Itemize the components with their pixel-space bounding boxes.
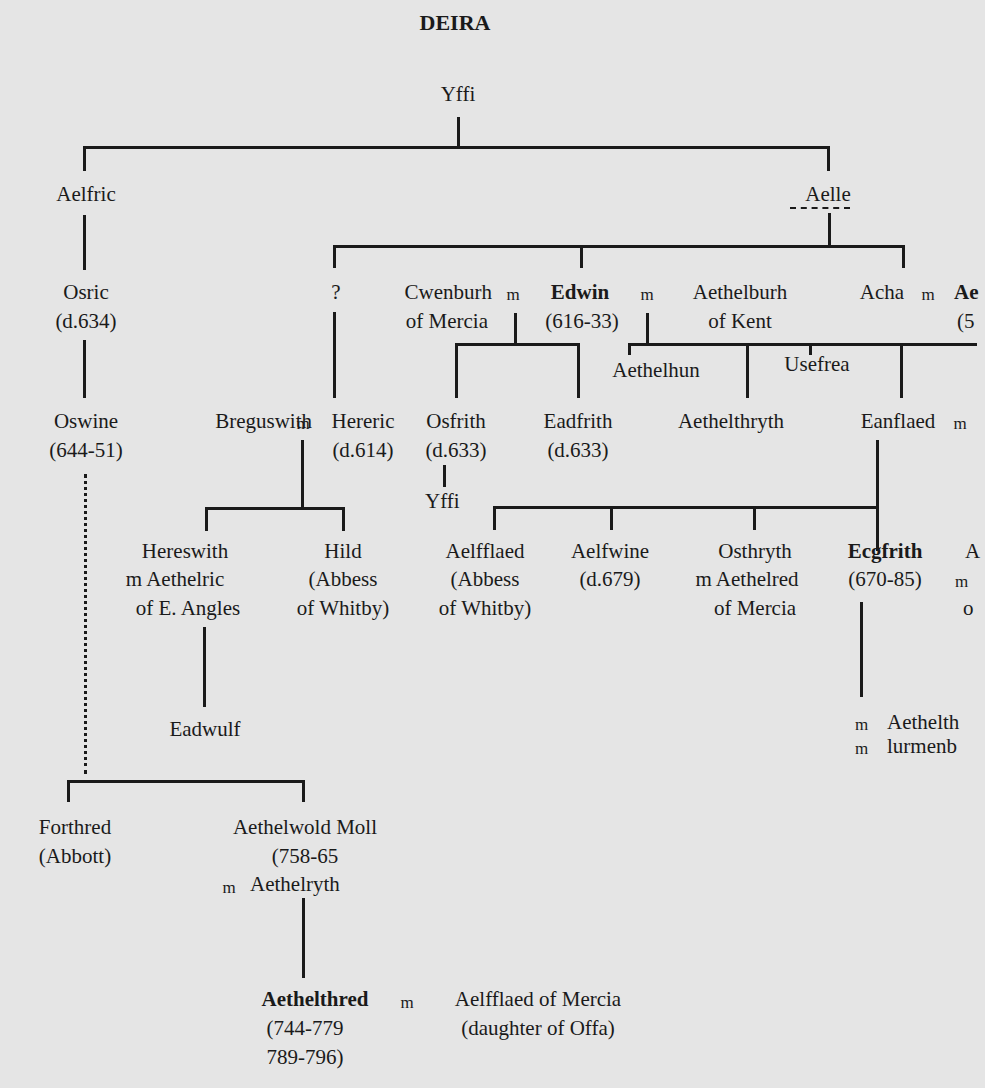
line-hereswith-eadwulf — [203, 627, 206, 707]
aethelburh-note: of Kent — [670, 307, 810, 336]
person-osthryth: Osthryth — [690, 537, 820, 566]
person-hereric: Hereric — [318, 407, 408, 436]
person-oswine: Oswine — [36, 407, 136, 436]
aelfflaed-mercia-note: (daughter of Offa) — [428, 1014, 648, 1043]
aethelwold-spouse: Aethelryth — [250, 870, 390, 899]
line-to-hereswith — [205, 507, 208, 531]
person-aethelthred: Aethelthred — [245, 985, 385, 1014]
aelfflaed-abbess-note1: (Abbess — [420, 565, 550, 594]
person-acha: Acha — [852, 278, 912, 307]
marriage-acha: m — [918, 280, 938, 309]
osric-dates: (d.634) — [36, 307, 136, 336]
person-ecgfrith: Ecgfrith — [835, 537, 935, 566]
person-aelfflaed-abbess: Aelfflaed — [420, 537, 550, 566]
person-yffi-root: Yffi — [428, 80, 488, 109]
line-to-aelfflaed — [493, 506, 496, 530]
person-cwenburh: Cwenburh — [360, 278, 492, 307]
person-hild: Hild — [288, 537, 398, 566]
hereswith-spouse: m Aethelric — [110, 565, 240, 594]
person-usefrea: Usefrea — [772, 350, 862, 379]
hereric-dates: (d.614) — [318, 436, 408, 465]
hild-note2: of Whitby) — [268, 594, 418, 623]
line-aelle-down — [828, 213, 831, 247]
person-eadwulf: Eadwulf — [150, 715, 260, 744]
osfrith-dates: (d.633) — [416, 436, 496, 465]
line-to-aelle — [827, 146, 830, 171]
marriage-edwin-aethelburh: m — [637, 280, 657, 309]
person-aethelwold: Aethelwold Moll — [205, 813, 405, 842]
aelle-dashed-underline — [790, 207, 850, 209]
line-hereric-children-bar — [205, 507, 345, 510]
marriage-breguswith-hereric: m — [293, 409, 313, 438]
person-unknown: ? — [326, 278, 346, 307]
oswine-dates: (644-51) — [36, 436, 136, 465]
line-to-forthred — [67, 780, 70, 802]
line-aethelwold-aethelthred — [302, 898, 305, 978]
osthryth-spouse: m Aethelred — [672, 565, 822, 594]
person-osric: Osric — [36, 278, 136, 307]
line-osfrith-yffi — [443, 465, 446, 487]
line-to-unknown — [333, 245, 336, 268]
line-to-aethelwold — [302, 780, 305, 802]
line-eanflaed-issue — [876, 440, 879, 551]
aelfflaed-abbess-note2: of Whitby) — [410, 594, 560, 623]
person-aelle: Aelle — [788, 180, 868, 209]
ecgfrith-sibling-marriage: m — [955, 567, 985, 596]
line-oswine-descendants-bar — [67, 780, 305, 783]
line-osric-oswine — [83, 340, 86, 398]
ecgfrith-sibling-note: o — [963, 594, 985, 623]
cwenburh-note: of Mercia — [360, 307, 488, 336]
line-hereric-issue — [301, 440, 304, 510]
person-aelfflaed-mercia: Aelfflaed of Mercia — [428, 985, 648, 1014]
aethelthred-dates1: (744-779 — [255, 1014, 355, 1043]
person-yffi-grandson: Yffi — [425, 487, 475, 516]
line-cwenburh-edwin-issue — [514, 313, 517, 344]
line-aethelburh-children-bar — [628, 343, 977, 346]
osthryth-note: of Mercia — [690, 594, 820, 623]
line-to-aelfwine — [610, 506, 613, 530]
ecgfrith-dates: (670-85) — [835, 565, 935, 594]
marriage-aethelwold: m — [219, 873, 239, 902]
aelfwine-dates: (d.679) — [555, 565, 665, 594]
page-title: DEIRA — [405, 8, 505, 37]
line-unknown-hereric — [333, 312, 336, 398]
person-breguswith: Breguswith — [150, 407, 312, 436]
line-to-aethelhun — [628, 343, 631, 355]
marriage-ecgfrith-2: m — [855, 734, 875, 763]
edwin-dates: (616-33) — [532, 307, 632, 336]
line-to-aethelthryth — [746, 343, 749, 398]
person-osfrith: Osfrith — [416, 407, 496, 436]
line-to-osfrith — [455, 343, 458, 398]
line-eanflaed-children-bar — [493, 506, 879, 509]
person-aethelhun: Aethelhun — [596, 356, 716, 385]
marriage-eanflaed: m — [950, 409, 970, 438]
person-aelfwine: Aelfwine — [555, 537, 665, 566]
eadfrith-dates: (d.633) — [528, 436, 628, 465]
line-aelle-children-bar — [333, 245, 905, 248]
person-aethelburh: Aethelburh — [670, 278, 810, 307]
person-hereswith: Hereswith — [120, 537, 250, 566]
line-yffi-down — [457, 117, 460, 148]
ecgfrith-spouse-2: lurmenb — [887, 732, 985, 761]
person-forthred: Forthred — [20, 813, 130, 842]
line-oswine-descendants-dotted — [84, 474, 87, 774]
aethelwold-dates: (758-65 — [255, 842, 355, 871]
hild-note1: (Abbess — [288, 565, 398, 594]
marriage-aethelthred: m — [397, 988, 417, 1017]
line-aelfric-osric — [83, 215, 86, 270]
person-aelfric: Aelfric — [36, 180, 136, 209]
aethelthred-dates2: 789-796) — [255, 1043, 355, 1072]
person-eanflaed: Eanflaed — [848, 407, 948, 436]
hereswith-note: of E. Angles — [118, 594, 258, 623]
marriage-cwenburh-edwin: m — [503, 280, 523, 309]
line-ecgfrith-spouses — [860, 602, 863, 697]
line-to-hild — [342, 507, 345, 531]
forthred-note: (Abbott) — [20, 842, 130, 871]
line-to-aelfric — [83, 146, 86, 171]
ecgfrith-sibling: A — [965, 537, 985, 566]
acha-spouse-dates: (5 — [957, 307, 985, 336]
line-yffi-children-bar — [83, 146, 830, 149]
line-edwin-aethelburh-issue — [646, 313, 649, 344]
person-acha-spouse: Ae — [954, 278, 985, 307]
line-to-eadfrith — [577, 343, 580, 398]
